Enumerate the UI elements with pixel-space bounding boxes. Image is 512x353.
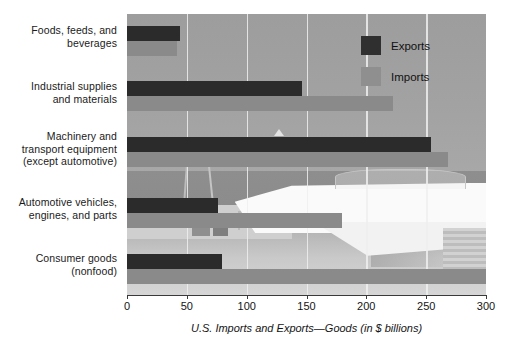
category-label-line: Machinery and <box>0 130 117 143</box>
photo-marker-icon <box>274 129 284 136</box>
category-label-line: Automotive vehicles, <box>0 196 117 209</box>
x-tick-150 <box>307 295 308 299</box>
photo-stairs <box>443 228 486 273</box>
x-tick-label-200: 200 <box>357 300 375 312</box>
x-tick-300 <box>486 295 487 299</box>
category-label-automotive: Automotive vehicles, engines, and parts <box>0 196 117 221</box>
x-tick-50 <box>187 295 188 299</box>
legend-item-exports[interactable]: Exports <box>361 36 430 55</box>
x-tick-label-250: 250 <box>417 300 435 312</box>
bar-exports-machinery <box>127 137 431 152</box>
x-tick-100 <box>247 295 248 299</box>
bar-imports-consumer <box>127 269 486 284</box>
category-label-consumer: Consumer goods (nonfood) <box>0 252 117 277</box>
legend-swatch-imports <box>361 67 381 86</box>
category-label-line: beverages <box>0 37 117 50</box>
plot-area: Exports Imports <box>127 14 486 295</box>
x-tick-200 <box>366 295 367 299</box>
legend-label-imports: Imports <box>391 71 429 83</box>
x-tick-label-0: 0 <box>124 300 130 312</box>
bar-exports-consumer <box>127 254 222 269</box>
bar-imports-industrial <box>127 96 393 111</box>
x-tick-label-100: 100 <box>238 300 256 312</box>
category-label-line: (nonfood) <box>0 265 117 278</box>
category-label-line: Industrial supplies <box>0 80 117 93</box>
chart-figure: Foods, feeds, and beverages Industrial s… <box>0 0 512 353</box>
bar-exports-foods <box>127 26 180 41</box>
bar-imports-automotive <box>127 213 342 228</box>
legend-swatch-exports <box>361 36 381 55</box>
category-label-line: engines, and parts <box>0 209 117 222</box>
bar-imports-machinery <box>127 152 448 167</box>
category-label-line: and materials <box>0 93 117 106</box>
legend: Exports Imports <box>361 36 473 94</box>
x-tick-label-150: 150 <box>297 300 315 312</box>
x-tick-0 <box>127 295 128 299</box>
x-tick-250 <box>426 295 427 299</box>
category-label-line: (except automotive) <box>0 155 117 168</box>
category-label-line: Foods, feeds, and <box>0 24 117 37</box>
x-tick-label-300: 300 <box>477 300 495 312</box>
bar-exports-industrial <box>127 81 302 96</box>
category-label-line: Consumer goods <box>0 252 117 265</box>
photo-ship-railing <box>335 169 466 190</box>
category-axis-labels: Foods, feeds, and beverages Industrial s… <box>0 0 123 295</box>
bar-exports-automotive <box>127 198 218 213</box>
category-label-industrial: Industrial supplies and materials <box>0 80 117 105</box>
x-axis-title: U.S. Imports and Exports—Goods (in $ bil… <box>127 322 486 334</box>
x-tick-label-50: 50 <box>181 300 193 312</box>
legend-label-exports: Exports <box>391 40 430 52</box>
legend-item-imports[interactable]: Imports <box>361 67 429 86</box>
category-label-machinery: Machinery and transport equipment (excep… <box>0 130 117 168</box>
category-label-line: transport equipment <box>0 143 117 156</box>
category-label-foods: Foods, feeds, and beverages <box>0 24 117 49</box>
bar-imports-foods <box>127 41 177 56</box>
